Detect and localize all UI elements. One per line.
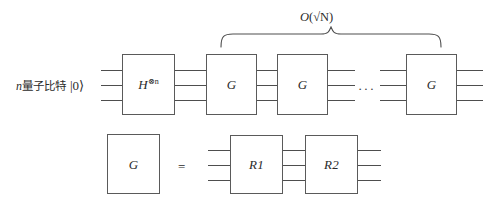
wire-top-q2-g2-to-ellipsis [328, 100, 355, 101]
wire-top-q1-h-to-g1 [175, 85, 206, 86]
gate-r2-label: R2 [324, 158, 339, 171]
wire-top-q2-output [457, 100, 483, 101]
wire-top-q1-input [101, 85, 122, 86]
gate-grover-last[interactable]: G [406, 54, 457, 115]
wire-top-q0-g2-to-ellipsis [328, 70, 355, 71]
wire-bottom-q2-input [208, 180, 230, 181]
gate-grover-2-label: G [298, 78, 308, 91]
wire-top-q0-g1-to-g2 [257, 70, 277, 71]
equals-sign: = [178, 160, 185, 173]
wire-top-q0-h-to-g1 [175, 70, 206, 71]
wire-top-q2-input [101, 100, 122, 101]
quantum-circuit-diagram: O(√N) n量子比特|0⟩ H⊗n G G ··· G [0, 0, 497, 211]
brace-label-complexity: O(√N) [300, 11, 333, 24]
wire-top-q2-ellipsis-to-glast [380, 100, 406, 101]
wire-bottom-q0-input [208, 150, 230, 151]
gate-hadamard-label: H⊗n [138, 78, 158, 91]
wire-top-q0-output [457, 70, 483, 71]
brace-label-radical: √N [313, 10, 329, 24]
brace-label-close-paren: ) [329, 10, 333, 24]
wire-bottom-q1-output [358, 165, 381, 166]
wire-top-q1-ellipsis-to-glast [380, 85, 406, 86]
wire-top-q2-h-to-g1 [175, 100, 206, 101]
gate-r2[interactable]: R2 [305, 135, 358, 194]
gate-grover-definition[interactable]: G [107, 134, 160, 194]
gate-sequence-ellipsis: ··· [358, 82, 376, 95]
brace-label-function: O [300, 10, 309, 24]
wire-top-q2-g1-to-g2 [257, 100, 277, 101]
wire-bottom-q0-output [358, 150, 381, 151]
wire-bottom-q2-r1-to-r2 [283, 180, 305, 181]
qubit-state-ket: |0⟩ [70, 78, 84, 93]
wire-bottom-q2-output [358, 180, 381, 181]
wire-bottom-q1-r1-to-r2 [283, 165, 305, 166]
wire-top-q0-input [101, 70, 122, 71]
gate-grover-last-label: G [427, 78, 437, 91]
wire-bottom-q1-input [208, 165, 230, 166]
horizontal-curly-brace [218, 26, 444, 48]
qubit-label-cjk-text: 量子比特 [22, 79, 66, 93]
qubit-input-label: n量子比特|0⟩ [16, 79, 84, 93]
wire-top-q1-output [457, 85, 483, 86]
gate-grover-2[interactable]: G [277, 54, 328, 115]
wire-top-q1-g1-to-g2 [257, 85, 277, 86]
wire-bottom-q0-r1-to-r2 [283, 150, 305, 151]
gate-grover-definition-label: G [129, 158, 139, 171]
gate-grover-1-label: G [227, 78, 237, 91]
gate-hadamard-base: H [138, 77, 148, 92]
gate-hadamard-tensor-n[interactable]: H⊗n [122, 54, 175, 115]
gate-r1[interactable]: R1 [230, 135, 283, 194]
gate-r1-label: R1 [249, 158, 264, 171]
wire-top-q1-g2-to-ellipsis [328, 85, 355, 86]
wire-top-q0-ellipsis-to-glast [380, 70, 406, 71]
gate-grover-1[interactable]: G [206, 54, 257, 115]
curly-brace-icon [218, 26, 444, 48]
gate-hadamard-superscript: ⊗n [148, 77, 159, 86]
